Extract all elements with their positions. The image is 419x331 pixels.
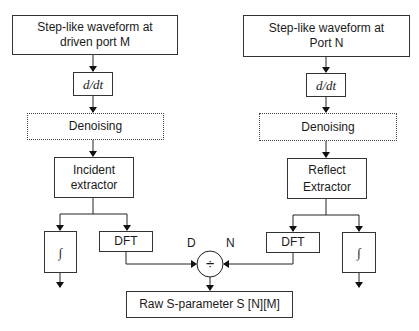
- denominator-label: D: [187, 236, 196, 250]
- driven-port-waveform-line1: Step-like waveform at: [37, 20, 152, 35]
- left-dft-box: DFT: [99, 231, 153, 252]
- divide-icon: ÷: [201, 255, 219, 273]
- port-n-waveform-line1: Step-like waveform at: [269, 21, 384, 36]
- left-dft-label: DFT: [114, 234, 137, 249]
- numerator-label: N: [226, 236, 235, 250]
- right-dft-box: DFT: [266, 232, 320, 253]
- right-integral-box: ∫: [342, 232, 376, 273]
- left-denoising-label: Denoising: [69, 119, 122, 134]
- reflect-extractor-line1: Reflect: [308, 162, 345, 179]
- driven-port-waveform-line2: driven port M: [60, 35, 130, 50]
- reflect-extractor-box: Reflect Extractor: [287, 158, 367, 199]
- right-derivative-box: d/dt: [306, 73, 346, 97]
- left-derivative-label: d/dt: [83, 77, 103, 92]
- incident-extractor-line2: extractor: [71, 178, 118, 193]
- driven-port-waveform-box: Step-like waveform at driven port M: [12, 15, 178, 55]
- right-denoising-box: Denoising: [259, 113, 397, 141]
- right-derivative-label: d/dt: [316, 78, 336, 93]
- port-n-waveform-box: Step-like waveform at Port N: [243, 15, 410, 57]
- reflect-extractor-line2: Extractor: [303, 179, 351, 196]
- incident-extractor-box: Incident extractor: [54, 157, 134, 198]
- right-dft-label: DFT: [281, 235, 304, 250]
- raw-s-parameter-label: Raw S-parameter S [N][M]: [139, 297, 280, 312]
- left-integral-icon: ∫: [59, 245, 63, 260]
- incident-extractor-line1: Incident: [73, 163, 115, 178]
- right-integral-icon: ∫: [357, 245, 361, 260]
- raw-s-parameter-box: Raw S-parameter S [N][M]: [126, 291, 293, 318]
- left-integral-box: ∫: [44, 231, 77, 273]
- right-denoising-label: Denoising: [301, 120, 354, 135]
- left-denoising-box: Denoising: [27, 113, 164, 140]
- port-n-waveform-line2: Port N: [309, 36, 343, 51]
- left-derivative-box: d/dt: [73, 72, 113, 96]
